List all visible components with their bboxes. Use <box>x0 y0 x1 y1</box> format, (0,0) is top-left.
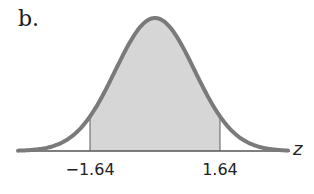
axis-variable-label: z <box>293 138 302 159</box>
tick-label-left: −1.64 <box>66 160 115 179</box>
normal-curve-chart <box>0 0 314 194</box>
tick-label-right: 1.64 <box>202 160 238 179</box>
